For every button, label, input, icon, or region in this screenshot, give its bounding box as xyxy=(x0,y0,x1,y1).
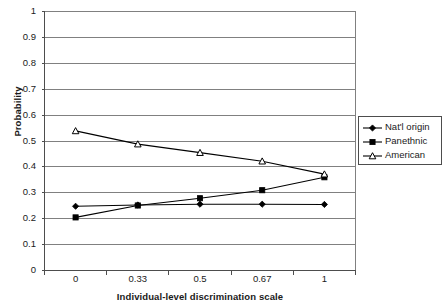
series-3 xyxy=(72,128,327,177)
legend-key-glyph xyxy=(362,150,383,162)
legend-marker-icon xyxy=(362,134,383,146)
series-2 xyxy=(73,175,327,220)
legend-marker-icon xyxy=(362,148,383,160)
data-point-marker xyxy=(259,201,265,207)
data-point-marker xyxy=(370,139,375,144)
legend-item[interactable]: Panethnic xyxy=(359,133,441,147)
data-point-marker xyxy=(321,201,327,207)
line-chart: Probability Individual-level discriminat… xyxy=(0,0,445,308)
series-1 xyxy=(73,201,328,209)
data-point-marker xyxy=(72,128,79,134)
legend-item-label: American xyxy=(383,149,425,160)
legend-key-glyph xyxy=(362,122,383,134)
axes xyxy=(42,12,356,275)
data-point-marker xyxy=(260,188,265,193)
data-point-marker xyxy=(73,203,79,209)
data-point-marker xyxy=(197,201,203,207)
data-point-marker xyxy=(369,125,375,131)
legend-item-label: Panethnic xyxy=(383,135,427,146)
data-point-marker xyxy=(73,215,78,220)
chart-legend: Nat'l originPanethnicAmerican xyxy=(358,116,442,165)
data-point-marker xyxy=(197,196,202,201)
data-point-marker xyxy=(135,203,140,208)
legend-item[interactable]: American xyxy=(359,147,441,161)
legend-key-glyph xyxy=(362,136,383,148)
legend-item[interactable]: Nat'l origin xyxy=(359,119,441,133)
gridlines xyxy=(45,12,356,245)
legend-marker-icon xyxy=(362,120,383,132)
legend-item-label: Nat'l origin xyxy=(383,121,430,132)
